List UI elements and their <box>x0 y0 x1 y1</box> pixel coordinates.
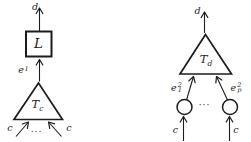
right-edge-label-right-base: e <box>231 83 237 93</box>
right-branch-arrow-left <box>187 77 194 101</box>
figure-canvas: d L e1 Tc c ... c d Td e21 e2p ··· c c <box>0 0 251 142</box>
right-edge-label-left-base: e <box>171 83 177 93</box>
left-edge-label-base: e <box>18 65 24 75</box>
left-ellipsis: ... <box>31 124 43 133</box>
right-output-label: d <box>194 6 200 16</box>
left-triangle-label-sub: c <box>39 105 43 113</box>
diagram-linework <box>0 0 251 142</box>
left-output-label: d <box>32 2 38 12</box>
left-unit-circle <box>177 100 192 115</box>
right-edge-label-right-sub: p <box>237 88 241 93</box>
right-edge-label-right: e2p <box>231 83 242 93</box>
right-edge-label-left-sub: 1 <box>178 88 182 93</box>
box-label: L <box>34 37 43 51</box>
right-unit-circle <box>223 100 238 115</box>
right-branch-arrow-right <box>217 77 228 101</box>
right-input-label-right: c <box>233 125 238 135</box>
right-triangle-label: Td <box>200 54 212 66</box>
right-input-label-left: c <box>173 125 178 135</box>
left-input-label-right: c <box>66 123 71 133</box>
left-input-label-left: c <box>7 123 12 133</box>
left-edge-label: e1 <box>18 65 28 75</box>
left-triangle-label-base: T <box>32 99 40 111</box>
right-ellipsis: ··· <box>199 100 211 109</box>
left-triangle-label: Tc <box>32 99 44 111</box>
left-input-arrow-left <box>16 122 29 137</box>
left-input-arrow-right <box>49 122 62 137</box>
right-triangle-label-base: T <box>200 54 208 66</box>
right-edge-label-left: e21 <box>171 83 182 93</box>
right-triangle-label-sub: d <box>207 60 212 68</box>
